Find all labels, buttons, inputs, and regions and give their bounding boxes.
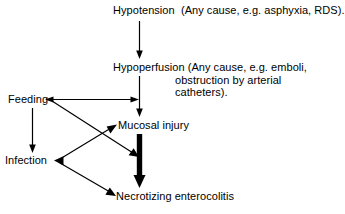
arrow-head-down-icon: [136, 109, 143, 118]
arrow-head-down-icon: [136, 51, 143, 60]
node-mucosal-injury: Mucosal injury: [118, 119, 189, 132]
arrow-head-down-thick-icon: [134, 175, 146, 188]
arrow-infection-to-necrotizing-enterocolitis: [60, 163, 116, 196]
arrow-infection-to-mucosal-injury: [60, 125, 117, 160]
node-feeding: Feeding: [8, 93, 48, 106]
arrow-head-down-icon: [29, 145, 36, 154]
arrow-shaft: [60, 163, 110, 192]
node-hypoperfusion-line-1: Hypoperfusion (Any cause, e.g. emboli,: [113, 61, 307, 73]
node-hypoperfusion: Hypoperfusion (Any cause, e.g. emboli,ob…: [113, 61, 307, 99]
flowchart-diagram: Hypotension (Any cause, e.g. asphyxia, R…: [0, 0, 345, 214]
node-infection: Infection: [5, 154, 47, 167]
node-hypoperfusion-line-2: obstruction by arterial: [113, 74, 307, 87]
arrow-shaft: [60, 128, 111, 159]
arrow-head-down-right-icon: [105, 188, 116, 196]
arrow-feeding-to-infection: [29, 108, 36, 153]
node-hypoperfusion-line-3: catheters).: [113, 86, 307, 99]
arrow-hypotension-to-hypoperfusion: [136, 21, 143, 59]
flowchart-arrows-layer: [0, 0, 345, 214]
node-necrotizing-enterocolitis: Necrotizing enterocolitis: [116, 190, 234, 203]
node-hypotension: Hypotension (Any cause, e.g. asphyxia, R…: [113, 4, 345, 17]
arrow-mucosal-injury-to-necrotizing-enterocolitis: [134, 134, 146, 188]
arrow-head-up-right-icon: [107, 125, 117, 134]
